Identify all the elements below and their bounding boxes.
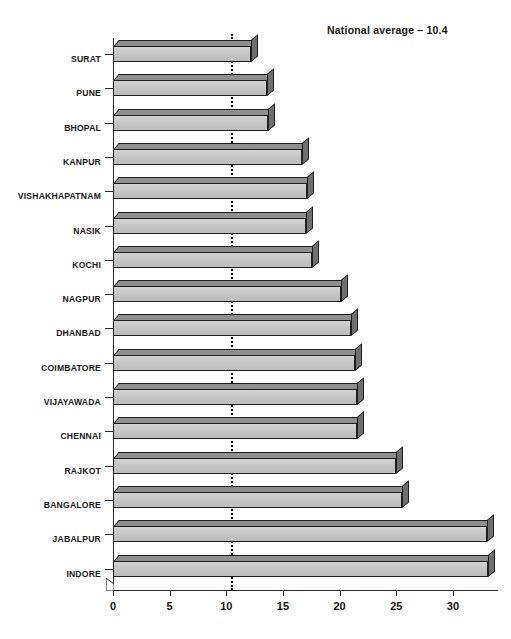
bar-front-face — [113, 320, 351, 336]
bar-front-face — [113, 46, 251, 62]
category-label-text: NAGPUR — [5, 294, 101, 304]
value-tick-label-20: 20 — [325, 600, 355, 612]
value-tick-label-30: 30 — [438, 600, 468, 612]
bar-side-face — [306, 206, 313, 234]
category-tick — [105, 157, 113, 158]
value-tick-label-15: 15 — [268, 600, 298, 612]
category-label-text: SURAT — [5, 54, 101, 64]
value-tick-10 — [226, 590, 227, 596]
bar-front-face — [113, 252, 312, 268]
bar-bhopal[interactable] — [113, 109, 275, 131]
category-tick — [105, 54, 113, 55]
plot-area: SURATPUNEBHOPALKANPURVISHAKHAPATNAMNASIK… — [0, 0, 511, 639]
value-tick-25 — [396, 590, 397, 596]
bar-front-face — [113, 423, 357, 439]
bar-side-face — [251, 34, 258, 62]
category-label-chennai: CHENNAI — [0, 431, 101, 443]
bar-nasik[interactable] — [113, 212, 313, 234]
category-label-text: INDORE — [5, 569, 101, 579]
bar-front-face — [113, 492, 402, 508]
value-tick-30 — [453, 590, 454, 596]
category-label-kanpur: KANPUR — [0, 157, 101, 169]
category-tick — [105, 397, 113, 398]
bar-jabalpur[interactable] — [113, 520, 494, 542]
bar-front-face — [113, 183, 307, 199]
figure-caption — [22, 629, 492, 639]
category-label-vishakhapatnam: VISHAKHAPATNAM — [0, 191, 101, 203]
category-label-surat: SURAT — [0, 54, 101, 66]
category-tick — [105, 363, 113, 364]
bar-side-face — [357, 411, 364, 439]
bar-side-face — [267, 68, 274, 96]
category-label-kochi: KOCHI — [0, 260, 101, 272]
category-label-text: NASIK — [5, 226, 101, 236]
bar-side-face — [302, 137, 309, 165]
category-tick — [105, 88, 113, 89]
bar-side-face — [312, 240, 319, 268]
category-label-text: COIMBATORE — [5, 363, 101, 373]
bar-front-face — [113, 561, 488, 577]
category-label-text: JABALPUR — [5, 534, 101, 544]
value-tick-label-0: 0 — [98, 600, 128, 612]
bar-chennai[interactable] — [113, 417, 364, 439]
bar-front-face — [113, 526, 487, 542]
bar-indore[interactable] — [113, 555, 495, 577]
value-tick-label-25: 25 — [381, 600, 411, 612]
category-label-text: KANPUR — [5, 157, 101, 167]
category-label-text: BANGALORE — [5, 500, 101, 510]
value-tick-20 — [340, 590, 341, 596]
category-tick — [105, 500, 113, 501]
category-tick — [105, 569, 113, 570]
category-tick — [105, 123, 113, 124]
bar-side-face — [488, 549, 495, 577]
bar-side-face — [341, 274, 348, 302]
bar-vishakhapatnam[interactable] — [113, 177, 314, 199]
bar-rajkot[interactable] — [113, 452, 403, 474]
value-tick-15 — [283, 590, 284, 596]
category-tick — [105, 328, 113, 329]
bar-surat[interactable] — [113, 40, 258, 62]
category-tick — [105, 260, 113, 261]
category-label-bangalore: BANGALORE — [0, 500, 101, 512]
category-label-pune: PUNE — [0, 88, 101, 100]
category-label-bhopal: BHOPAL — [0, 123, 101, 135]
category-label-dhanbad: DHANBAD — [0, 328, 101, 340]
bar-side-face — [402, 480, 409, 508]
bar-front-face — [113, 80, 267, 96]
bar-side-face — [396, 446, 403, 474]
category-label-text: RAJKOT — [5, 466, 101, 476]
category-label-text: BHOPAL — [5, 123, 101, 133]
bar-front-face — [113, 355, 355, 371]
bar-nagpur[interactable] — [113, 280, 348, 302]
bar-vijayawada[interactable] — [113, 383, 364, 405]
category-label-jabalpur: JABALPUR — [0, 534, 101, 546]
bar-side-face — [355, 343, 362, 371]
bar-side-face — [357, 377, 364, 405]
category-label-text: KOCHI — [5, 260, 101, 270]
category-label-indore: INDORE — [0, 569, 101, 581]
bar-front-face — [113, 389, 357, 405]
category-tick — [105, 294, 113, 295]
bar-bangalore[interactable] — [113, 486, 409, 508]
bar-side-face — [487, 514, 494, 542]
category-tick — [105, 534, 113, 535]
category-label-nagpur: NAGPUR — [0, 294, 101, 306]
bar-front-face — [113, 218, 306, 234]
category-tick — [105, 431, 113, 432]
bar-kanpur[interactable] — [113, 143, 309, 165]
category-label-nasik: NASIK — [0, 226, 101, 238]
bar-dhanbad[interactable] — [113, 314, 358, 336]
value-tick-5 — [170, 590, 171, 596]
bar-coimbatore[interactable] — [113, 349, 362, 371]
bar-front-face — [113, 115, 268, 131]
category-label-text: DHANBAD — [5, 328, 101, 338]
category-label-coimbatore: COIMBATORE — [0, 363, 101, 375]
value-tick-0 — [113, 590, 114, 596]
category-label-text: CHENNAI — [5, 431, 101, 441]
bar-front-face — [113, 149, 302, 165]
bar-kochi[interactable] — [113, 246, 319, 268]
bar-side-face — [307, 171, 314, 199]
value-axis-line — [113, 590, 498, 591]
bar-pune[interactable] — [113, 74, 274, 96]
category-tick — [105, 191, 113, 192]
